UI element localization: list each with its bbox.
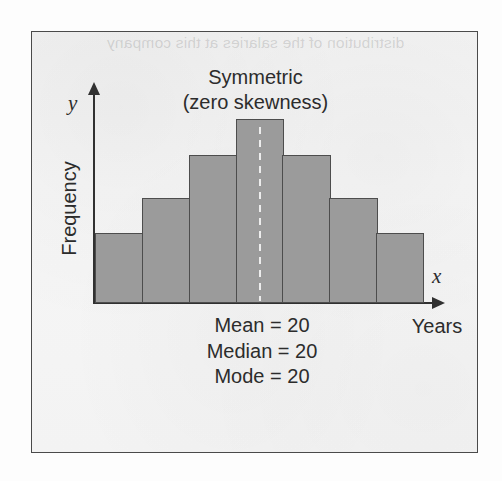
median-annotation: Median = 20 [152,339,372,365]
x-axis-symbol-label: x [432,264,441,289]
figure-frame: distribution of the salaries at this com… [31,31,478,453]
histogram-bar [189,155,237,303]
plot-area: Symmetric (zero skewness) y Frequency x … [32,32,478,453]
mean-annotation: Mean = 20 [152,313,372,339]
statistics-annotations: Mean = 20 Median = 20 Mode = 20 [152,313,372,390]
histogram-bar [142,198,190,304]
y-axis-title: Frequency [58,139,81,279]
histogram-bar [376,233,424,303]
histogram-bar [236,119,284,303]
x-axis-arrow-icon [432,297,445,309]
y-axis-symbol-label: y [68,91,77,116]
histogram-bar [282,155,330,303]
histogram-bar [329,198,377,304]
histogram-bar [95,233,143,303]
mode-annotation: Mode = 20 [152,364,372,390]
histogram-bars [95,92,423,303]
figure-container: distribution of the salaries at this com… [0,0,502,481]
x-axis-title: Years [387,315,478,338]
